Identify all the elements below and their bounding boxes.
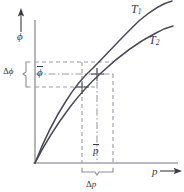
- p-bar-label: p: [93, 144, 99, 156]
- delta-phi-brace: [23, 62, 30, 87]
- phi-axis-arrow-icon: [18, 8, 24, 32]
- curve-T1: [35, 1, 172, 163]
- construction-lines-group: [35, 62, 113, 163]
- y-axis-label: ϕ: [17, 31, 23, 42]
- thermodynamic-isotherm-figure: T1 T2 ϕ p Δϕ Δp ϕ p: [0, 0, 184, 192]
- delta-p-brace: [82, 168, 113, 175]
- curve-label-T1: T1: [131, 3, 141, 16]
- x-axis-label: p: [152, 166, 158, 177]
- figure-canvas: [0, 0, 184, 192]
- p-axis-arrow-icon: [160, 168, 182, 174]
- curve-label-T2: T2: [149, 34, 159, 47]
- phi-bar-label: ϕ: [37, 66, 43, 78]
- delta-p-label: Δp: [86, 180, 96, 189]
- delta-phi-label: Δϕ: [3, 67, 13, 76]
